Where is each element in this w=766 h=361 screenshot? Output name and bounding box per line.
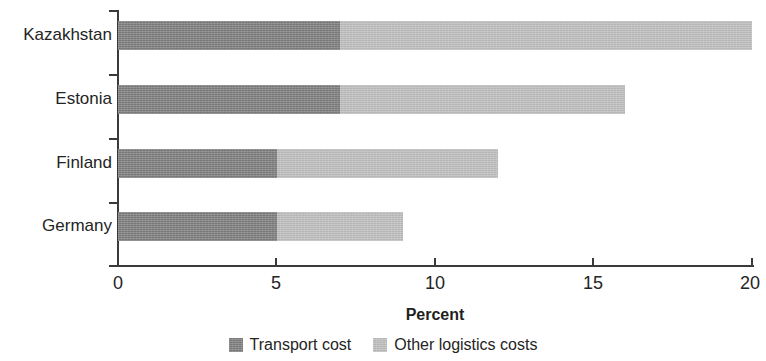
print-grain — [277, 149, 499, 178]
bar-segment-transport-cost — [118, 149, 277, 178]
bar-segment-transport-cost — [118, 21, 340, 50]
x-axis-tick — [592, 258, 594, 267]
x-axis-tick — [275, 258, 277, 267]
x-axis-tick-label-15: 15 — [563, 272, 623, 294]
y-axis-tick — [109, 10, 118, 12]
print-grain — [118, 21, 340, 50]
x-axis-tick-label-10: 10 — [405, 272, 465, 294]
legend-swatch-icon — [373, 338, 387, 352]
print-grain — [118, 85, 340, 114]
legend-item-transport-cost: Transport cost — [229, 336, 352, 354]
x-axis-tick-label-20: 20 — [720, 272, 766, 294]
y-axis-label-estonia: Estonia — [0, 90, 112, 110]
category-label: Finland — [4, 154, 112, 172]
bar-segment-other-logistics-costs — [277, 149, 499, 178]
category-label: Germany — [4, 217, 112, 235]
x-axis-tick-label-0: 0 — [88, 272, 148, 294]
y-axis-label-kazakhstan: Kazakhstan — [0, 26, 112, 46]
y-axis-tick — [109, 74, 118, 76]
print-grain — [229, 338, 243, 352]
y-axis-label-finland: Finland — [0, 154, 112, 174]
x-axis-tick — [117, 258, 119, 267]
print-grain — [118, 212, 277, 241]
y-axis-label-germany: Germany — [0, 217, 112, 237]
print-grain — [340, 85, 625, 114]
bar-segment-other-logistics-costs — [340, 21, 752, 50]
x-axis-tick — [751, 258, 753, 267]
print-grain — [340, 21, 752, 50]
y-axis-tick — [109, 202, 118, 204]
category-label: Kazakhstan — [4, 26, 112, 44]
stacked-bar-chart: Kazakhstan Estonia Finland Germany 0 5 1… — [0, 0, 766, 361]
legend-swatch-icon — [229, 338, 243, 352]
legend-label: Transport cost — [250, 336, 352, 354]
x-axis-tick — [434, 258, 436, 267]
x-axis-tick-label-5: 5 — [246, 272, 306, 294]
print-grain — [118, 149, 277, 178]
bar-segment-other-logistics-costs — [277, 212, 404, 241]
bar-segment-transport-cost — [118, 85, 340, 114]
bar-segment-transport-cost — [118, 212, 277, 241]
category-label: Estonia — [4, 90, 112, 108]
legend-label: Other logistics costs — [394, 336, 537, 354]
y-axis-tick — [109, 138, 118, 140]
legend-item-other-logistics-costs: Other logistics costs — [373, 336, 537, 354]
print-grain — [277, 212, 404, 241]
bar-segment-other-logistics-costs — [340, 85, 625, 114]
x-axis-title: Percent — [118, 306, 752, 324]
chart-legend: Transport cost Other logistics costs — [0, 336, 766, 354]
print-grain — [373, 338, 387, 352]
